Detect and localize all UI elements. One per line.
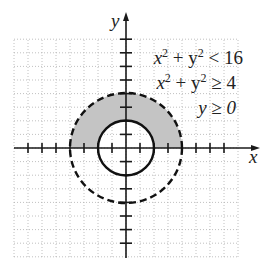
svg-text:x2 + y2 ≥ 4: x2 + y2 ≥ 4	[155, 71, 236, 93]
y-axis-arrow-icon	[123, 12, 129, 21]
inequality-2: x2 + y2 ≥ 4	[155, 71, 236, 93]
x-axis	[14, 145, 260, 151]
inequality-graph: y x x2 + y2 < 16 x2 + y2 ≥ 4 y ≥ 0	[0, 0, 266, 268]
y-axis-label: y	[109, 10, 120, 31]
svg-text:x2 + y2 < 16: x2 + y2 < 16	[153, 46, 243, 68]
inequality-1: x2 + y2 < 16	[153, 46, 243, 68]
x-axis-label: x	[248, 146, 258, 167]
inequality-3: y ≥ 0	[196, 97, 236, 118]
